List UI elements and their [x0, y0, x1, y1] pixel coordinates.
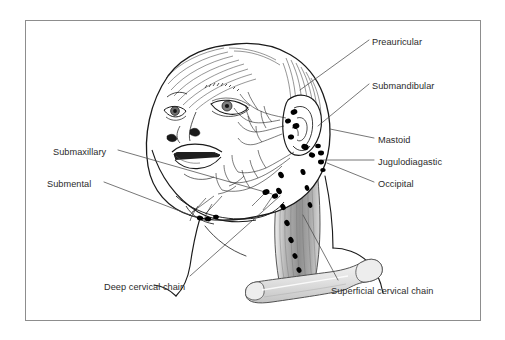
label-jugulodiagastic: Jugulodiagastic — [378, 157, 442, 168]
label-superficial-cervical-chain: Superficial cervical chain — [331, 286, 433, 297]
label-submental: Submental — [47, 179, 91, 190]
occipital-leader — [327, 163, 374, 182]
label-submandibular: Submandibular — [372, 81, 434, 92]
figure-root: Preauricular Submandibular Mastoid Jugul… — [0, 0, 505, 340]
neck-back-contour — [325, 176, 333, 248]
eye-near-pupil — [225, 104, 229, 108]
label-mastoid: Mastoid — [378, 135, 411, 146]
clavicle-sternal-end — [245, 282, 264, 300]
occipital-nodes — [315, 144, 321, 148]
eye-far-pupil — [173, 109, 177, 113]
preauricular-leader — [300, 40, 369, 90]
label-deep-cervical-chain: Deep cervical chain — [104, 282, 185, 293]
label-preauricular: Preauricular — [372, 37, 422, 48]
infant-head — [146, 43, 330, 224]
neck-fold-line — [205, 226, 246, 256]
label-occipital: Occipital — [378, 179, 414, 190]
mastoid-leader — [330, 129, 374, 138]
label-submaxillary: Submaxillary — [53, 147, 106, 158]
